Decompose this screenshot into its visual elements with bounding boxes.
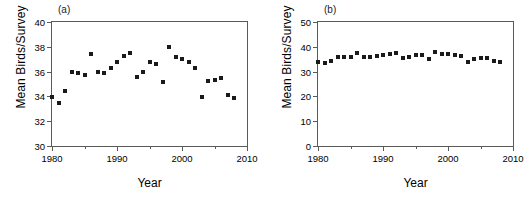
data-point (161, 80, 165, 84)
data-point (102, 71, 106, 75)
plot-area-b: 010203040501980199020002010 (317, 21, 514, 147)
y-tick-label: 0 (306, 141, 311, 152)
data-point (148, 60, 152, 64)
data-point (141, 70, 145, 74)
chart-panel-a: (a) Mean Birds/Survey Year 3032343638401… (0, 0, 266, 201)
data-point (193, 66, 197, 70)
x-tick-label: 2000 (171, 153, 192, 164)
data-point (368, 55, 372, 59)
data-point (154, 62, 158, 66)
data-point (70, 70, 74, 74)
data-point (336, 55, 340, 59)
y-tick-label: 30 (300, 66, 311, 77)
x-axis-title-b: Year (317, 176, 514, 190)
y-tick-label: 10 (300, 116, 311, 127)
data-point (362, 55, 366, 59)
y-tick-label: 36 (34, 66, 45, 77)
x-axis-title-a: Year (51, 176, 248, 190)
y-tick-label: 30 (34, 141, 45, 152)
x-tick-label: 1990 (372, 153, 393, 164)
panel-label-b: (b) (324, 4, 336, 15)
data-point (375, 54, 379, 58)
data-point (89, 52, 93, 56)
data-point (453, 53, 457, 57)
plot-area-a: 3032343638401980199020002010 (51, 21, 248, 147)
data-point (200, 95, 204, 99)
data-point (115, 60, 119, 64)
y-tick-mark (313, 121, 318, 122)
data-point (96, 70, 100, 74)
data-point (466, 60, 470, 64)
x-tick-mark (513, 146, 514, 151)
x-tick-mark (318, 146, 319, 151)
y-axis-title-a: Mean Birds/Survey (14, 0, 28, 122)
x-tick-label: 2010 (236, 153, 257, 164)
x-tick-label: 2000 (437, 153, 458, 164)
panel-label-a: (a) (58, 4, 70, 15)
y-tick-label: 34 (34, 91, 45, 102)
x-tick-mark-minor (416, 146, 417, 149)
data-point (355, 51, 359, 55)
data-point (135, 75, 139, 79)
data-point (388, 52, 392, 56)
y-tick-mark (313, 96, 318, 97)
data-point (485, 56, 489, 60)
x-tick-mark (52, 146, 53, 151)
data-point (472, 57, 476, 61)
x-tick-mark-minor (481, 146, 482, 149)
x-tick-mark (247, 146, 248, 151)
data-point (213, 78, 217, 82)
y-tick-mark (47, 72, 52, 73)
data-point (446, 52, 450, 56)
data-point (83, 73, 87, 77)
data-point (433, 50, 437, 54)
data-point (63, 89, 67, 93)
x-tick-label: 2010 (502, 153, 523, 164)
data-point (394, 51, 398, 55)
chart-panel-b: (b) Mean Birds/Survey Year 0102030405019… (266, 0, 532, 201)
data-point (323, 61, 327, 65)
x-tick-mark (383, 146, 384, 151)
data-point (414, 53, 418, 57)
data-point (50, 95, 54, 99)
data-point (401, 56, 405, 60)
data-point (427, 57, 431, 61)
data-point (342, 55, 346, 59)
y-tick-mark (47, 121, 52, 122)
y-tick-label: 38 (34, 41, 45, 52)
data-point (492, 59, 496, 63)
data-point (219, 76, 223, 80)
x-tick-label: 1980 (41, 153, 62, 164)
data-point (479, 56, 483, 60)
y-tick-mark (47, 22, 52, 23)
data-point (109, 66, 113, 70)
data-point (459, 54, 463, 58)
data-point (128, 51, 132, 55)
data-point (76, 71, 80, 75)
y-tick-mark (313, 47, 318, 48)
data-point (174, 55, 178, 59)
data-point (180, 57, 184, 61)
data-point (232, 96, 236, 100)
x-tick-mark (117, 146, 118, 151)
y-tick-label: 40 (300, 41, 311, 52)
data-point (420, 53, 424, 57)
data-point (349, 55, 353, 59)
x-tick-label: 1990 (106, 153, 127, 164)
y-tick-mark (47, 47, 52, 48)
x-tick-mark-minor (85, 146, 86, 149)
data-point (122, 54, 126, 58)
data-point (167, 45, 171, 49)
data-point (206, 79, 210, 83)
y-tick-mark (313, 72, 318, 73)
data-point (381, 53, 385, 57)
y-tick-label: 40 (34, 17, 45, 28)
data-point (440, 52, 444, 56)
x-tick-mark (182, 146, 183, 151)
data-point (329, 59, 333, 63)
data-point (226, 93, 230, 97)
x-tick-mark-minor (215, 146, 216, 149)
data-point (316, 60, 320, 64)
y-tick-label: 50 (300, 17, 311, 28)
data-point (187, 60, 191, 64)
